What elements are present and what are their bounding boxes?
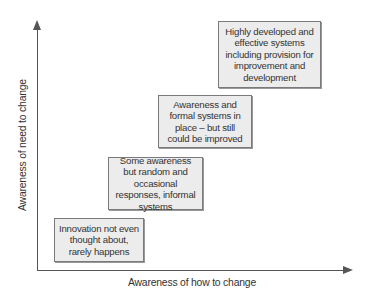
stage-box-4: Highly developed and effective systems i…: [218, 21, 321, 88]
stage-box-2: Some awareness but random and occasional…: [108, 157, 203, 210]
y-axis-line: [37, 26, 38, 271]
y-axis-label: Awareness of need to change: [17, 79, 28, 211]
y-axis-arrow-icon: [33, 20, 41, 30]
stage-box-3: Awareness and formal systems in place – …: [158, 95, 252, 148]
stage-box-1-text: Innovation not even thought about, rarel…: [59, 223, 139, 258]
x-axis-arrow-icon: [343, 266, 353, 274]
stage-box-4-text: Highly developed and effective systems i…: [223, 26, 316, 84]
stage-box-1: Innovation not even thought about, rarel…: [54, 218, 144, 262]
stage-box-2-text: Some awareness but random and occasional…: [113, 155, 198, 213]
x-axis-label: Awareness of how to change: [37, 277, 347, 288]
x-axis-line: [37, 270, 347, 271]
stage-box-3-text: Awareness and formal systems in place – …: [163, 99, 247, 145]
